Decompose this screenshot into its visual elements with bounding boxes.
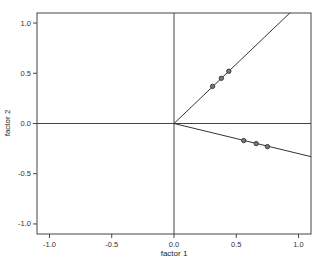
y-tick-label: 0.0 <box>21 119 31 128</box>
x-tick-label: 1.0 <box>293 240 303 249</box>
factor-line <box>174 13 290 124</box>
x-tick-label: 0.0 <box>169 240 179 249</box>
series-group <box>174 13 290 124</box>
data-point-marker <box>219 76 223 80</box>
series-layer <box>174 13 311 157</box>
y-tick-label: 1.0 <box>21 19 31 28</box>
x-tick-label: -1.0 <box>43 240 56 249</box>
y-axis-label: factor 2 <box>3 109 12 136</box>
series-group <box>174 124 311 157</box>
x-tick-label: -0.5 <box>105 240 118 249</box>
data-point-marker <box>254 141 258 145</box>
y-tick-label: 0.5 <box>21 69 31 78</box>
data-point-marker <box>210 84 214 88</box>
x-tick-label: 0.5 <box>231 240 241 249</box>
x-axis-label: factor 1 <box>161 249 188 258</box>
y-tick-label: -1.0 <box>18 219 31 228</box>
data-point-marker <box>227 69 231 73</box>
y-tick-label: -0.5 <box>18 169 31 178</box>
x-axis-ticks: -1.0-0.50.00.51.0 <box>43 234 304 249</box>
factor-plot: -1.0-0.50.00.51.0 1.00.50.0-0.5-1.0 fact… <box>0 0 320 270</box>
y-axis-ticks: 1.00.50.0-0.5-1.0 <box>18 19 37 229</box>
data-point-marker <box>265 144 269 148</box>
data-point-marker <box>242 138 246 142</box>
